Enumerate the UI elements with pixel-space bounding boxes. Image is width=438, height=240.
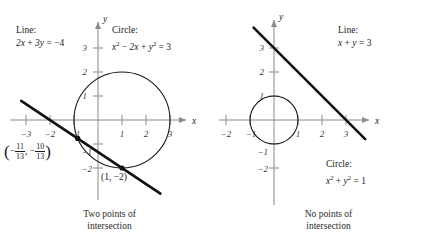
y-axis-arrow bbox=[271, 20, 277, 27]
y-tick-label: 3 bbox=[259, 43, 265, 53]
y-tick-label: −2 bbox=[81, 164, 92, 174]
x-axis-arrow bbox=[362, 117, 369, 123]
circle-label-right: Circle: x2 + y2 = 1 bbox=[326, 158, 366, 188]
point-label-simple: (1, −2) bbox=[101, 171, 127, 184]
caption-line-1: No points of bbox=[219, 208, 438, 220]
x-tick-label: 1 bbox=[120, 129, 125, 139]
caption-left: Two points of intersection bbox=[0, 208, 219, 232]
y-tick-label: −2 bbox=[257, 164, 268, 174]
point-label-fraction: (−1113, −1013) bbox=[4, 142, 51, 161]
x-tick-label: 2 bbox=[144, 129, 149, 139]
y-tick-label: −1 bbox=[257, 147, 268, 157]
intersection-point-a bbox=[75, 136, 80, 141]
line-label-equation: x + y = 3 bbox=[338, 37, 371, 50]
circle-label-title: Circle: bbox=[326, 158, 366, 171]
y-tick-label: 3 bbox=[82, 43, 88, 53]
fraction-x: 1113 bbox=[15, 142, 25, 161]
panel-two-points: −3 −2 −1 1 2 3 3 2 1 −1 −2 x y bbox=[0, 0, 219, 240]
circle-label-left: Circle: x2 − 2x + y2 = 3 bbox=[112, 24, 171, 54]
circle-label-equation: x2 + y2 = 1 bbox=[326, 171, 366, 188]
x-tick-label: 1 bbox=[296, 129, 301, 139]
caption-line-1: Two points of bbox=[0, 208, 219, 220]
circle-label-equation: x2 − 2x + y2 = 3 bbox=[112, 37, 171, 54]
line-label-title: Line: bbox=[16, 24, 64, 37]
x-tick-label: −3 bbox=[21, 129, 32, 139]
x-tick-label: 3 bbox=[343, 129, 349, 139]
line-label-title: Line: bbox=[338, 24, 371, 37]
y-axis-name: y bbox=[102, 14, 108, 24]
caption-line-2: intersection bbox=[0, 220, 219, 232]
fraction-y: 1013 bbox=[35, 142, 45, 161]
figure-pair: −3 −2 −1 1 2 3 3 2 1 −1 −2 x y bbox=[0, 0, 438, 240]
line-label-left: Line: 2x + 3y = −4 bbox=[16, 24, 64, 50]
circle-label-title: Circle: bbox=[112, 24, 171, 37]
y-axis-arrow bbox=[95, 22, 101, 29]
x-axis-name: x bbox=[191, 116, 197, 126]
intersection-point-b bbox=[119, 165, 124, 170]
caption-right: No points of intersection bbox=[219, 208, 438, 232]
x-axis-name: x bbox=[374, 116, 380, 126]
y-tick-label: 2 bbox=[83, 67, 88, 77]
y-tick-label: 2 bbox=[260, 67, 265, 77]
x-tick-label: 2 bbox=[320, 129, 325, 139]
caption-line-2: intersection bbox=[219, 220, 438, 232]
panel-no-points: −2 −1 1 2 3 3 2 1 −1 −2 x y bbox=[219, 0, 438, 240]
x-tick-label: −2 bbox=[45, 129, 56, 139]
y-axis-name: y bbox=[278, 12, 284, 22]
x-axis-arrow bbox=[179, 117, 186, 123]
line-label-equation: 2x + 3y = −4 bbox=[16, 37, 64, 50]
plot-right: −2 −1 1 2 3 3 2 1 −1 −2 x y bbox=[219, 0, 438, 240]
x-tick-label: −2 bbox=[221, 129, 232, 139]
line-label-right: Line: x + y = 3 bbox=[338, 24, 371, 50]
